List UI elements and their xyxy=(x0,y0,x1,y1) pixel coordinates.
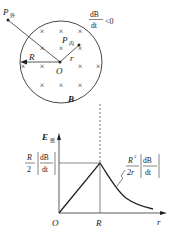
y-axis-arrow xyxy=(57,133,61,140)
svg-text:dB: dB xyxy=(40,153,49,162)
field-graph: E 感 r O R R 2 dB dt R 2 2r dB xyxy=(25,132,167,228)
x-axis-arrow xyxy=(160,211,167,215)
outside-point-label: P xyxy=(2,7,9,17)
svg-text:×: × xyxy=(78,27,83,36)
origin-label: O xyxy=(52,218,59,228)
y-axis-label: E xyxy=(41,132,48,142)
y-axis-subscript: 感 xyxy=(50,137,55,143)
svg-text:2r: 2r xyxy=(127,168,135,177)
inside-point xyxy=(78,44,81,47)
svg-text:×: × xyxy=(59,81,64,90)
center-point xyxy=(59,61,62,64)
rate-condition: dB dt <0 xyxy=(89,10,114,30)
svg-text:×: × xyxy=(78,62,83,71)
svg-text:dB: dB xyxy=(90,10,99,19)
field-label: B xyxy=(67,94,74,104)
svg-text:×: × xyxy=(40,27,45,36)
svg-text:×: × xyxy=(78,81,83,90)
svg-text:2: 2 xyxy=(134,154,137,159)
svg-text:dt: dt xyxy=(145,168,152,177)
svg-text:2: 2 xyxy=(27,165,31,174)
svg-text:dB: dB xyxy=(143,156,152,165)
induced-field-diagram: × × × × × × × × × × × × × P 外 P 内 r R xyxy=(0,0,173,235)
svg-text:dt: dt xyxy=(91,21,98,30)
svg-text:×: × xyxy=(96,62,101,71)
field-curve xyxy=(59,163,153,213)
outside-point xyxy=(7,19,10,22)
curve-value-label: R 2 2r dB dt xyxy=(117,154,159,186)
outside-point-subscript: 外 xyxy=(10,12,15,19)
svg-text:×: × xyxy=(40,62,45,71)
curve-label-leader xyxy=(117,170,125,186)
svg-text:R: R xyxy=(127,156,133,165)
peak-value-label: R 2 dB dt xyxy=(25,152,55,175)
svg-text:R: R xyxy=(26,153,32,162)
field-region: × × × × × × × × × × × × × P 外 P 内 r R xyxy=(2,7,114,104)
x-axis-label: r xyxy=(157,217,161,227)
svg-text:×: × xyxy=(40,81,45,90)
r-label: r xyxy=(70,53,74,63)
inside-point-label: P xyxy=(61,35,68,45)
svg-text:<0: <0 xyxy=(105,17,114,26)
svg-text:×: × xyxy=(59,44,64,53)
svg-text:dt: dt xyxy=(42,165,49,174)
center-label: O xyxy=(56,66,63,76)
inside-point-subscript: 内 xyxy=(69,40,74,47)
x-tick-label: R xyxy=(95,218,102,228)
radius-label: R xyxy=(28,52,35,62)
